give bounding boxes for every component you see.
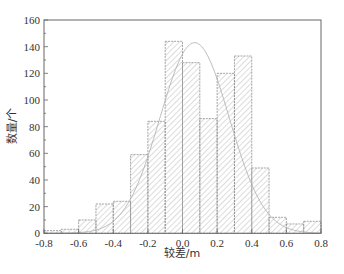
histogram-bar <box>252 168 269 233</box>
x-tick-label: 0.2 <box>210 237 224 249</box>
histogram-bar <box>183 63 200 234</box>
y-axis-title: 数量/个 <box>6 108 19 145</box>
histogram-bars <box>44 41 321 233</box>
y-tick-label: 20 <box>29 201 41 213</box>
histogram-bar <box>269 217 286 233</box>
x-axis-title: 较差/m <box>164 246 200 260</box>
histogram-bar <box>200 119 217 234</box>
histogram-bar <box>165 41 182 233</box>
x-tick-label: -0.6 <box>70 237 88 249</box>
y-tick-label: 140 <box>24 41 41 53</box>
y-tick-label: 60 <box>29 147 41 159</box>
y-tick-label: 80 <box>29 121 41 133</box>
y-tick-label: 100 <box>24 94 41 106</box>
histogram-chart: 020406080100120140160 -0.8-0.6-0.4-0.20.… <box>0 0 344 274</box>
x-tick-label: -0.4 <box>105 237 123 249</box>
y-tick-label: 40 <box>29 174 41 186</box>
x-tick-label: 0.8 <box>314 237 328 249</box>
x-tick-label: 0.4 <box>245 237 259 249</box>
x-tick-label: -0.8 <box>35 237 53 249</box>
y-tick-label: 160 <box>24 14 41 26</box>
x-tick-label: -0.2 <box>139 237 156 249</box>
y-tick-label: 120 <box>24 67 41 79</box>
histogram-bar <box>113 201 130 233</box>
histogram-bar <box>148 121 165 233</box>
x-tick-label: 0.6 <box>280 237 294 249</box>
histogram-bar <box>217 73 234 233</box>
histogram-bar <box>304 221 321 233</box>
